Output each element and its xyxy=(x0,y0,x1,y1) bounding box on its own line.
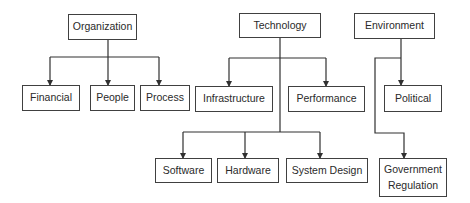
node-people: People xyxy=(90,85,135,111)
diagram-canvas: Organization Financial People Process Te… xyxy=(0,0,470,203)
node-label: Performance xyxy=(296,91,356,106)
node-process: Process xyxy=(140,85,190,111)
node-organization: Organization xyxy=(68,14,137,40)
node-environment: Environment xyxy=(354,13,435,39)
node-label: Organization xyxy=(73,19,133,34)
node-label: Hardware xyxy=(225,163,271,178)
node-technology: Technology xyxy=(239,13,321,38)
node-label: Technology xyxy=(253,18,306,33)
node-label: Software xyxy=(163,163,204,178)
node-label: Political xyxy=(395,91,431,106)
node-infrastructure: Infrastructure xyxy=(195,86,273,112)
node-label: System Design xyxy=(292,163,363,178)
node-label: Financial xyxy=(30,90,72,105)
node-government-regulation: Government Regulation xyxy=(379,158,447,197)
node-label: Government Regulation xyxy=(384,162,442,192)
node-financial: Financial xyxy=(22,85,80,111)
node-system-design: System Design xyxy=(286,158,368,183)
node-hardware: Hardware xyxy=(217,158,279,183)
node-label: Environment xyxy=(365,18,424,33)
node-label: Infrastructure xyxy=(203,91,265,106)
node-label: People xyxy=(96,90,129,105)
node-label: Process xyxy=(146,90,184,105)
node-software: Software xyxy=(155,158,212,183)
node-performance: Performance xyxy=(288,86,365,112)
node-political: Political xyxy=(384,85,442,112)
